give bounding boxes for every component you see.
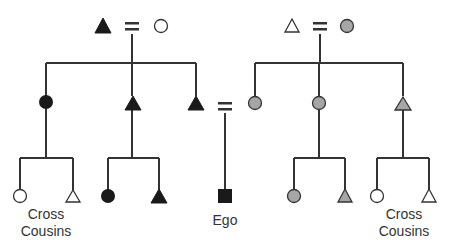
filled-circle-icon xyxy=(39,95,53,109)
marriage-sign-right-grandparents xyxy=(313,22,327,31)
filled-triangle-icon xyxy=(125,96,141,110)
open-triangle-icon xyxy=(285,19,299,32)
ego-label: Ego xyxy=(213,212,238,228)
open-circle-icon xyxy=(14,190,27,203)
right-cross-cousins-label-line2: Cousins xyxy=(379,223,430,239)
descent-lines xyxy=(20,34,429,190)
gray-circle-icon xyxy=(249,97,262,110)
filled-triangle-icon xyxy=(188,96,204,110)
open-triangle-icon xyxy=(422,189,436,202)
gray-circle-icon xyxy=(341,20,354,33)
open-circle-icon xyxy=(155,20,168,33)
filled-triangle-icon xyxy=(151,189,167,203)
right-cross-cousins-label-line1: Cross xyxy=(386,206,423,222)
gray-circle-icon xyxy=(313,97,326,110)
ego-square-icon xyxy=(218,189,232,203)
left-cross-cousins-label-line1: Cross xyxy=(28,206,65,222)
kinship-diagram: Ego Cross Cousins Cross Cousins xyxy=(0,0,450,250)
gray-triangle-icon xyxy=(338,189,352,202)
left-cross-cousins-label-line2: Cousins xyxy=(21,223,72,239)
open-triangle-icon xyxy=(66,190,80,202)
filled-triangle-icon xyxy=(95,18,111,33)
marriage-sign-parents xyxy=(218,102,232,111)
gray-circle-icon xyxy=(288,190,301,203)
open-circle-icon xyxy=(371,190,384,203)
gray-triangle-icon xyxy=(395,97,411,110)
marriage-sign-left-grandparents xyxy=(125,22,139,31)
filled-circle-icon xyxy=(101,189,115,203)
